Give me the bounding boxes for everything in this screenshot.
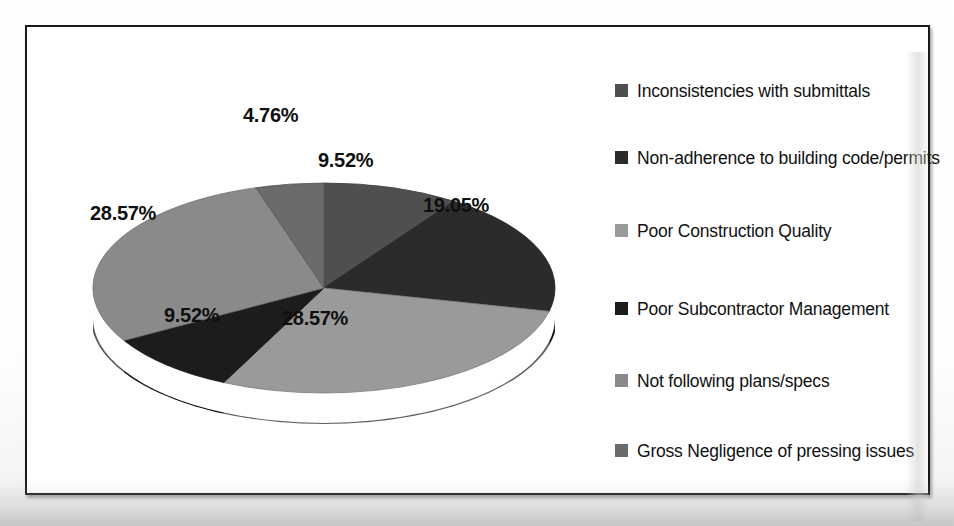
legend-swatch-icon-0	[615, 84, 628, 97]
legend-item-0[interactable]: Inconsistencies with submittals	[615, 80, 870, 102]
legend-item-5[interactable]: Gross Negligence of pressing issues	[615, 440, 914, 462]
legend-item-4[interactable]: Not following plans/specs	[615, 370, 829, 392]
slice-label-9-52-bottom: 9.52%	[164, 304, 219, 327]
legend-swatch-icon-3	[615, 302, 628, 315]
legend-item-1[interactable]: Non-adherence to building code/permits	[615, 147, 940, 169]
legend-item-3[interactable]: Poor Subcontractor Management	[615, 298, 889, 320]
legend-label-0: Inconsistencies with submittals	[637, 80, 870, 102]
slice-label-4-76: 4.76%	[243, 104, 298, 127]
legend-swatch-icon-2	[615, 224, 628, 237]
chart-frame: 4.76% 9.52% 19.05% 28.57% 9.52% 28.57% I…	[25, 25, 930, 495]
legend-swatch-icon-5	[615, 444, 628, 457]
slice-label-9-52-top: 9.52%	[318, 149, 373, 172]
slice-label-28-57-bottom: 28.57%	[282, 307, 348, 330]
legend-label-3: Poor Subcontractor Management	[637, 298, 889, 320]
legend-item-2[interactable]: Poor Construction Quality	[615, 220, 831, 242]
legend-swatch-icon-1	[615, 151, 628, 164]
pie-chart: 4.76% 9.52% 19.05% 28.57% 9.52% 28.57%	[65, 82, 565, 412]
legend-label-1: Non-adherence to building code/permits	[637, 147, 940, 169]
legend-label-4: Not following plans/specs	[637, 370, 829, 392]
legend-label-5: Gross Negligence of pressing issues	[637, 440, 914, 462]
legend-swatch-icon-4	[615, 374, 628, 387]
slice-label-19-05: 19.05%	[423, 194, 489, 217]
legend-label-2: Poor Construction Quality	[637, 220, 831, 242]
slice-label-28-57-left: 28.57%	[90, 202, 156, 225]
